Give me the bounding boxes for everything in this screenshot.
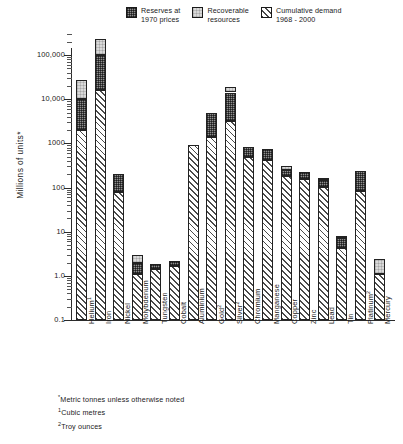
x-tick-label-gold: Gold2 xyxy=(216,305,226,324)
y-tick-minor xyxy=(67,236,72,237)
y-tick-major xyxy=(64,99,72,100)
x-tick-label-platinum: Platinum2 xyxy=(365,291,375,324)
y-tick-major xyxy=(64,276,72,277)
bar-segment-recoverable xyxy=(281,166,292,170)
y-tick-minor xyxy=(67,218,72,219)
bar-segment-reserves xyxy=(281,170,292,176)
x-tick-label-silver: Silver2 xyxy=(234,302,244,324)
bar-segment-reserves xyxy=(95,55,106,90)
bar-zinc[interactable] xyxy=(299,0,310,320)
x-tick-label-copper: Copper xyxy=(290,299,299,324)
x-tick-label-zinc: Zinc xyxy=(309,309,318,324)
bar-segment-reserves xyxy=(132,263,143,274)
y-tick-label: 10 xyxy=(56,228,65,236)
x-tick-label-helium: Helium1 xyxy=(86,297,96,324)
y-tick-minor xyxy=(67,299,72,300)
y-tick-minor xyxy=(67,249,72,250)
bar-silver2[interactable] xyxy=(225,0,236,320)
x-tick-label-chromium: Chromium xyxy=(253,289,262,324)
y-tick-minor xyxy=(67,286,72,287)
y-tick-label: 0.1 xyxy=(54,316,65,324)
x-tick-label-cobalt: Cobalt xyxy=(179,302,188,324)
footnote-asterisk: *Metric tonnes unless otherwise noted xyxy=(58,392,184,405)
y-tick-minor xyxy=(67,161,72,162)
bar-tungsten[interactable] xyxy=(150,0,161,320)
bar-nickel[interactable] xyxy=(113,0,124,320)
x-tick-label-manganese: Manganese xyxy=(272,284,281,324)
bar-segment-reserves xyxy=(113,174,124,192)
bar-segment-reserves xyxy=(150,264,161,269)
y-tick-minor xyxy=(67,192,72,193)
y-tick-minor xyxy=(67,190,72,191)
bar-segment-demand xyxy=(299,179,310,320)
bar-segment-demand xyxy=(76,130,87,320)
bar-platinum2[interactable] xyxy=(355,0,366,320)
bar-segment-reserves xyxy=(336,238,347,248)
bar-segment-demand xyxy=(113,192,124,320)
y-tick-minor xyxy=(67,109,72,110)
x-tick-label-mercury: Mercury xyxy=(383,296,392,324)
y-tick-major xyxy=(64,232,72,233)
bar-gold2[interactable] xyxy=(206,0,217,320)
x-tick-label-tungsten: Tungsten xyxy=(160,292,169,324)
plot-area: Millions of units* 100,00010,00010001001… xyxy=(0,0,403,444)
y-tick-minor xyxy=(67,174,72,175)
y-tick-minor xyxy=(67,280,72,281)
y-tick-minor xyxy=(67,153,72,154)
y-tick-minor xyxy=(67,59,72,60)
bar-segment-reserves xyxy=(262,149,273,160)
y-tick-minor xyxy=(67,255,72,256)
y-tick-minor xyxy=(67,205,72,206)
y-tick-minor xyxy=(67,42,72,43)
y-tick-minor xyxy=(67,307,72,308)
y-axis-title: Millions of units* xyxy=(15,110,25,220)
bar-lead[interactable] xyxy=(318,0,329,320)
bar-segment-reserves xyxy=(355,171,366,191)
bar-segment-demand xyxy=(336,248,347,320)
y-tick-minor xyxy=(67,150,72,151)
bar-segment-reserves xyxy=(76,99,87,130)
bar-segment-demand xyxy=(318,187,329,320)
y-tick-minor xyxy=(67,201,72,202)
bar-copper[interactable] xyxy=(281,0,292,320)
bar-iron[interactable] xyxy=(95,0,106,320)
bar-segment-reserves xyxy=(318,180,329,186)
bar-segment-recoverable xyxy=(95,39,106,55)
footnotes: *Metric tonnes unless otherwise noted 1C… xyxy=(58,392,184,432)
y-tick-minor xyxy=(67,117,72,118)
bar-segment-reserves xyxy=(299,172,310,180)
y-tick-minor xyxy=(67,293,72,294)
y-tick-minor xyxy=(67,68,72,69)
x-tick-label-tin: Tin xyxy=(346,314,355,324)
bar-manganese[interactable] xyxy=(262,0,273,320)
y-tick-minor xyxy=(67,241,72,242)
y-tick-minor xyxy=(67,157,72,158)
bar-segment-recoverable xyxy=(76,80,87,100)
y-tick-minor xyxy=(67,166,72,167)
footnote-asterisk-text: Metric tonnes unless otherwise noted xyxy=(60,395,184,404)
y-tick-minor xyxy=(67,73,72,74)
bar-molybdenum[interactable] xyxy=(132,0,143,320)
x-tick-label-lead: Lead xyxy=(327,307,336,324)
y-tick-minor xyxy=(67,34,72,35)
y-tick-minor xyxy=(67,106,72,107)
bar-chromium[interactable] xyxy=(243,0,254,320)
y-tick-minor xyxy=(67,113,72,114)
bar-aluminium[interactable] xyxy=(188,0,199,320)
bar-cobalt[interactable] xyxy=(169,0,180,320)
bar-segment-recoverable xyxy=(336,236,347,238)
bar-mercury[interactable] xyxy=(374,0,385,320)
y-tick-label: 100,000 xyxy=(37,51,65,59)
bar-tin[interactable] xyxy=(336,0,347,320)
bar-helium1[interactable] xyxy=(76,0,87,320)
y-tick-minor xyxy=(67,145,72,146)
y-tick-minor xyxy=(67,245,72,246)
x-tick-label-molybdenum: Molybdenum xyxy=(141,280,150,324)
bar-segment-reserves xyxy=(206,113,217,137)
y-tick-minor xyxy=(67,197,72,198)
y-tick-label: 100 xyxy=(52,184,65,192)
y-tick-major xyxy=(64,188,72,189)
bar-segment-reserves xyxy=(225,93,236,122)
x-tick-label-iron: Iron xyxy=(104,311,113,324)
y-tick-minor xyxy=(67,278,72,279)
